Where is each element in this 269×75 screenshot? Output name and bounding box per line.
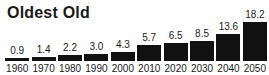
bar-value-label: 8.5 [195, 29, 209, 39]
chart-column: 1.41970 [30, 45, 56, 74]
bar [243, 22, 267, 61]
bar-chart: 0.919601.419702.219803.019904.320005.720… [4, 0, 268, 74]
chart-column: 5.72010 [136, 33, 162, 74]
bar-value-label: 13.6 [219, 22, 238, 32]
x-axis-tick-label: 2000 [112, 63, 134, 74]
bar [190, 41, 214, 61]
bar-value-label: 3.0 [89, 42, 103, 52]
x-axis-tick-label: 2050 [244, 63, 266, 74]
x-axis-tick-label: 2040 [217, 63, 239, 74]
bar-value-label: 5.7 [142, 33, 156, 43]
bar [216, 34, 240, 61]
bar-value-label: 0.9 [10, 46, 24, 56]
chart-column: 6.52020 [162, 31, 188, 74]
bar [58, 55, 82, 61]
bar [32, 57, 56, 61]
bar [5, 58, 29, 61]
bar [111, 52, 135, 61]
bar-value-label: 6.5 [169, 31, 183, 41]
bar-value-label: 1.4 [37, 45, 51, 55]
bar [84, 54, 108, 61]
x-axis-tick-label: 2020 [165, 63, 187, 74]
bar-value-label: 18.2 [245, 10, 264, 20]
chart-column: 13.62040 [215, 22, 241, 74]
x-axis-tick-label: 1990 [85, 63, 107, 74]
x-axis-tick-label: 1960 [6, 63, 28, 74]
x-axis-tick-label: 1970 [32, 63, 54, 74]
chart-column: 8.52030 [189, 29, 215, 74]
chart-column: 18.22050 [242, 10, 268, 74]
chart-column: 2.21980 [57, 43, 83, 74]
x-axis-tick-label: 1980 [59, 63, 81, 74]
chart-column: 0.91960 [4, 46, 30, 74]
chart-column: 3.01990 [83, 42, 109, 74]
bar [137, 45, 161, 61]
chart-column: 4.32000 [110, 40, 136, 74]
x-axis-tick-label: 2030 [191, 63, 213, 74]
bar-value-label: 2.2 [63, 43, 77, 53]
x-axis-tick-label: 2010 [138, 63, 160, 74]
bar [164, 43, 188, 61]
bar-value-label: 4.3 [116, 40, 130, 50]
